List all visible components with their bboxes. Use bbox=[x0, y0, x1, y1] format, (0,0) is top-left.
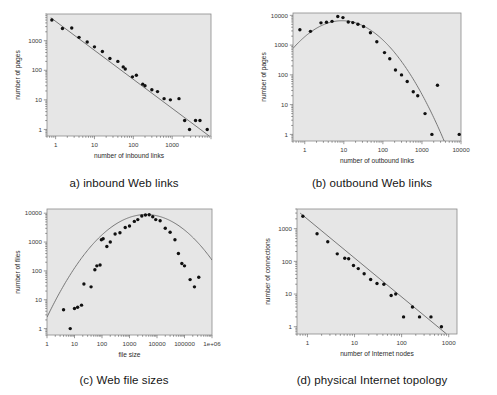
panel-c-caption: (c) Web file sizes bbox=[0, 374, 248, 386]
data-point bbox=[131, 75, 134, 78]
data-point bbox=[93, 268, 96, 271]
data-point bbox=[101, 50, 104, 53]
data-point bbox=[105, 245, 108, 248]
y-tick-label: 10 bbox=[285, 290, 292, 297]
data-point bbox=[118, 231, 121, 234]
panel-a-caption: a) inbound Web links bbox=[0, 177, 248, 189]
data-point bbox=[325, 20, 328, 23]
y-axis-title: number of connections bbox=[264, 237, 271, 304]
x-tick-label: 100 bbox=[396, 339, 407, 346]
x-tick-label: 1 bbox=[303, 146, 307, 153]
data-point bbox=[150, 88, 153, 91]
data-point bbox=[144, 213, 147, 216]
data-point bbox=[375, 282, 378, 285]
plot-area-d bbox=[297, 209, 457, 334]
x-tick-label: 100000 bbox=[174, 340, 195, 347]
data-point bbox=[336, 15, 339, 18]
x-tick-label: 1e+06 bbox=[203, 340, 221, 347]
data-point bbox=[362, 25, 365, 28]
data-point bbox=[77, 36, 80, 39]
data-point bbox=[330, 20, 333, 23]
x-tick-label: 1 bbox=[306, 339, 310, 346]
data-point bbox=[89, 285, 92, 288]
data-point bbox=[70, 26, 73, 29]
y-tick-label: 10000 bbox=[25, 209, 43, 216]
x-axis-title: number of Internet nodes bbox=[340, 350, 414, 357]
data-point bbox=[168, 230, 171, 233]
data-point bbox=[162, 97, 165, 100]
x-axis-title: number of inbound links bbox=[94, 152, 165, 159]
y-tick-label: 100 bbox=[278, 71, 289, 78]
x-axis-title: file size bbox=[119, 351, 141, 358]
data-point bbox=[429, 315, 432, 318]
x-tick-label: 1000 bbox=[415, 146, 429, 153]
y-tick-label: 1 bbox=[289, 323, 293, 330]
data-point bbox=[326, 240, 329, 243]
data-point bbox=[143, 84, 146, 87]
data-point bbox=[188, 278, 191, 281]
x-axis-title: number of outbound links bbox=[340, 157, 415, 164]
data-point bbox=[177, 97, 180, 100]
data-point bbox=[76, 306, 79, 309]
data-point bbox=[80, 303, 83, 306]
data-point bbox=[336, 252, 339, 255]
plot-b-svg: 110100100010000110100100010000number of … bbox=[248, 0, 496, 197]
data-point bbox=[177, 252, 180, 255]
data-point bbox=[98, 263, 101, 266]
data-point bbox=[197, 276, 200, 279]
data-point bbox=[440, 325, 443, 328]
data-point bbox=[418, 315, 421, 318]
data-point bbox=[135, 74, 138, 77]
x-tick-label: 1000 bbox=[442, 339, 456, 346]
data-point bbox=[124, 67, 127, 70]
y-tick-label: 1000 bbox=[278, 225, 292, 232]
data-point bbox=[86, 40, 89, 43]
data-point bbox=[133, 220, 136, 223]
data-point bbox=[315, 232, 318, 235]
plot-a-svg: 11010010001101001000number of inbound li… bbox=[0, 0, 248, 197]
data-point bbox=[113, 232, 116, 235]
panel-outbound-web-links: 110100100010000110100100010000number of … bbox=[248, 0, 496, 197]
data-point bbox=[193, 285, 196, 288]
data-point bbox=[169, 98, 172, 101]
y-tick-label: 10 bbox=[35, 296, 42, 303]
data-point bbox=[128, 224, 131, 227]
data-point bbox=[356, 23, 359, 26]
data-point bbox=[147, 213, 150, 216]
data-point bbox=[402, 315, 405, 318]
data-point bbox=[411, 305, 414, 308]
data-point bbox=[394, 292, 397, 295]
data-point bbox=[388, 57, 391, 60]
y-axis-title: number of pages bbox=[14, 50, 22, 100]
y-tick-label: 10 bbox=[281, 101, 288, 108]
data-point bbox=[95, 264, 98, 267]
x-tick-label: 1 bbox=[54, 141, 58, 148]
data-point bbox=[347, 20, 350, 23]
x-tick-label: 100 bbox=[128, 141, 139, 148]
data-point bbox=[108, 57, 111, 60]
x-tick-label: 10 bbox=[340, 146, 347, 153]
panel-web-file-sizes: 1101001000100001000001e+0611010010001000… bbox=[0, 197, 248, 394]
data-point bbox=[183, 119, 186, 122]
data-point bbox=[351, 21, 354, 24]
data-point bbox=[183, 264, 186, 267]
data-point bbox=[301, 215, 304, 218]
data-point bbox=[375, 40, 378, 43]
y-tick-label: 1 bbox=[39, 126, 43, 133]
data-point bbox=[158, 219, 161, 222]
data-point bbox=[436, 84, 439, 87]
y-tick-label: 1000 bbox=[28, 238, 42, 245]
data-point bbox=[400, 73, 403, 76]
data-point bbox=[73, 307, 76, 310]
data-point bbox=[62, 308, 65, 311]
data-point bbox=[416, 94, 419, 97]
data-point bbox=[389, 294, 392, 297]
data-point bbox=[61, 27, 64, 30]
data-point bbox=[82, 282, 85, 285]
panel-physical-internet-topology: 11010010001101001000number of Internet n… bbox=[248, 197, 496, 394]
data-point bbox=[164, 227, 167, 230]
data-point bbox=[309, 30, 312, 33]
x-tick-label: 10 bbox=[71, 340, 78, 347]
data-point bbox=[140, 214, 143, 217]
data-point bbox=[406, 80, 409, 83]
